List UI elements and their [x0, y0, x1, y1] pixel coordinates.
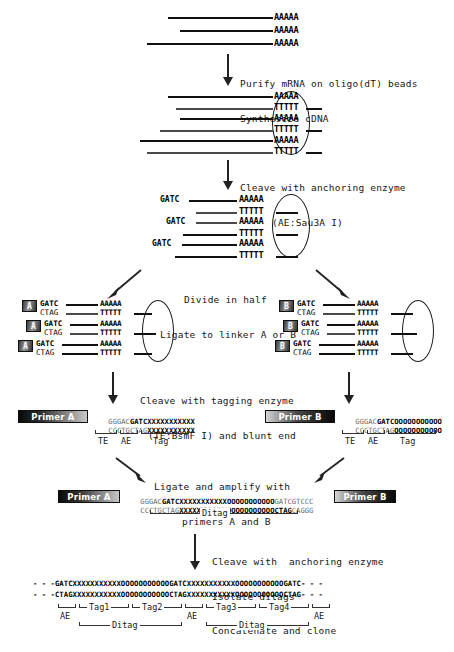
tag-a-bracket-ae — [120, 430, 138, 434]
linker-b-box-2: B — [283, 320, 298, 332]
concat-bracket-ae-1 — [58, 604, 76, 608]
ditag-primer-b-box: Primer B — [334, 490, 396, 503]
concat-label-ae-1: AE — [60, 611, 70, 621]
linker-b-ctag-3: CTAG — [293, 349, 311, 357]
linker-a-box-2: A — [26, 320, 41, 332]
arrow-step-2 — [223, 160, 234, 190]
linker-a-polyt-1: TTTTT — [100, 308, 121, 317]
mrna-strand-1 — [168, 17, 273, 19]
linker-b-topline-3 — [319, 344, 355, 346]
concat-label-ditag-2: Ditag — [237, 620, 267, 630]
tag-a-bracket-tag — [141, 430, 189, 434]
mrna-polya-2: AAAAA — [274, 26, 298, 35]
step-6-line-1: Cleave with anchoring enzyme — [212, 556, 384, 568]
linker-a-polya-3: AAAAA — [100, 339, 121, 348]
tag-a-label-tag: Tag — [153, 436, 168, 446]
linker-a-ctag-3: CTAG — [36, 349, 54, 357]
linker-b-polya-1: AAAAA — [357, 299, 378, 308]
tag-b-bracket-ae — [367, 430, 385, 434]
linker-b-box-1: B — [279, 300, 294, 312]
panel-linker-b: B GATC AAAAA CTAG TTTTT B GATC AAAAA CTA… — [227, 298, 454, 368]
cleaved-top-1 — [189, 200, 237, 202]
cdna-bottom-3 — [147, 152, 273, 154]
linker-b-polyt-2: TTTTT — [357, 328, 378, 337]
cdna-top-1 — [168, 96, 273, 98]
arrow-step-3-left — [105, 268, 145, 300]
arrow-step-5-right — [312, 456, 348, 484]
step-4-line-1: Cleave with tagging enzyme — [140, 395, 296, 407]
cdna-bottom-1 — [176, 108, 273, 110]
linker-b-polyt-1: TTTTT — [357, 308, 378, 317]
concatemer-bottom-strand: - - -CTAGXXXXXXXXXXXOOOOOOOOOOOCTAGXXXXX… — [33, 591, 323, 599]
linker-b-polyt-3: TTTTT — [357, 348, 378, 357]
bead-link-3 — [306, 152, 322, 154]
mrna-strand-2 — [180, 30, 273, 32]
cleaved-bottom-1 — [196, 212, 237, 214]
cleaved-polyt-2: TTTTT — [239, 229, 263, 238]
tag-b-label-te: TE — [345, 436, 355, 446]
cdna-polyt-3: TTTTT — [274, 147, 298, 156]
panel-ditag: Primer A GGGACGATCXXXXXXXXXXXOOOOOOOOOOO… — [0, 488, 454, 532]
tag-b-bracket-te — [342, 430, 364, 434]
concat-label-tag1: Tag1 — [87, 602, 111, 612]
mrna-strand-3 — [147, 43, 273, 45]
cdna-polyt-1: TTTTT — [274, 103, 298, 112]
arrow-step-1 — [223, 54, 234, 86]
linker-b-polya-2: AAAAA — [357, 319, 378, 328]
linker-a-box-1: A — [22, 300, 37, 312]
bead-link-b-2 — [391, 333, 417, 335]
primer-a-box: Primer A — [18, 410, 88, 423]
concat-bracket-ae-3 — [312, 604, 330, 608]
linker-a-box-3: A — [18, 340, 33, 352]
bead-link-b-3 — [391, 353, 413, 355]
cleaved-polya-3: AAAAA — [239, 239, 263, 248]
mrna-polya-1: AAAAA — [274, 13, 298, 22]
cdna-polya-1: AAAAA — [274, 92, 298, 101]
cdna-top-3 — [140, 140, 273, 142]
bead-link-1 — [306, 108, 322, 110]
linker-a-polyt-3: TTTTT — [100, 348, 121, 357]
cleaved-gatc-1: GATC — [160, 196, 179, 204]
linker-b-topline-2 — [327, 324, 355, 326]
panel-concatemer: - - -GATCXXXXXXXXXXXOOOOOOOOOOOGATCXXXXX… — [0, 578, 454, 652]
tag-b-label-ae: AE — [368, 436, 378, 446]
panel-tag-a: Primer A GGGACGATCXXXXXXXXXXX CCCTGCTAGX… — [0, 406, 227, 454]
concat-label-tag3: Tag3 — [214, 602, 238, 612]
linker-a-ctag-2: CTAG — [44, 329, 62, 337]
panel-cleaved: GATC AAAAA TTTTT GATC AAAAA TTTTT GATC A… — [0, 190, 454, 262]
tag-b-label-tag: Tag — [400, 436, 415, 446]
cdna-bottom-2 — [160, 130, 273, 132]
oligo-dt-bead-2 — [272, 194, 310, 258]
arrow-step-4-right — [344, 372, 355, 404]
linker-b-ctag-2: CTAG — [301, 329, 319, 337]
linker-b-botline-1 — [323, 313, 355, 315]
ditag-primer-a-box: Primer A — [58, 490, 120, 503]
bead-link-a-2 — [134, 333, 156, 335]
cdna-polya-2: AAAAA — [274, 114, 298, 123]
linker-b-polya-3: AAAAA — [357, 339, 378, 348]
concat-label-tag4: Tag4 — [267, 602, 291, 612]
bead-link-a-3 — [134, 353, 152, 355]
concat-bracket-ae-2 — [185, 604, 203, 608]
arrow-step-3-right — [312, 268, 352, 300]
linker-b-ctag-1: CTAG — [297, 309, 315, 317]
linker-a-polya-2: AAAAA — [100, 319, 121, 328]
linker-a-botline-1 — [66, 313, 98, 315]
linker-a-ctag-1: CTAG — [40, 309, 58, 317]
concatemer-top-strand: - - -GATCXXXXXXXXXXXOOOOOOOOOOOGATCXXXXX… — [33, 580, 323, 588]
bead-link-2 — [306, 130, 322, 132]
cleaved-bottom-2 — [183, 234, 237, 236]
concat-label-ae-3: AE — [314, 611, 324, 621]
linker-a-topline-2 — [70, 324, 98, 326]
linker-b-topline-1 — [323, 304, 355, 306]
primer-b-box: Primer B — [265, 410, 335, 423]
cdna-polya-3: AAAAA — [274, 136, 298, 145]
arrow-step-4-left — [108, 372, 119, 404]
cleaved-gatc-3: GATC — [152, 240, 171, 248]
cleaved-bottom-3 — [175, 256, 237, 258]
cleaved-gatc-2: GATC — [166, 218, 185, 226]
mrna-polya-3: AAAAA — [274, 39, 298, 48]
cdna-polyt-2: TTTTT — [274, 125, 298, 134]
linker-b-botline-3 — [319, 353, 355, 355]
linker-a-botline-2 — [70, 333, 98, 335]
